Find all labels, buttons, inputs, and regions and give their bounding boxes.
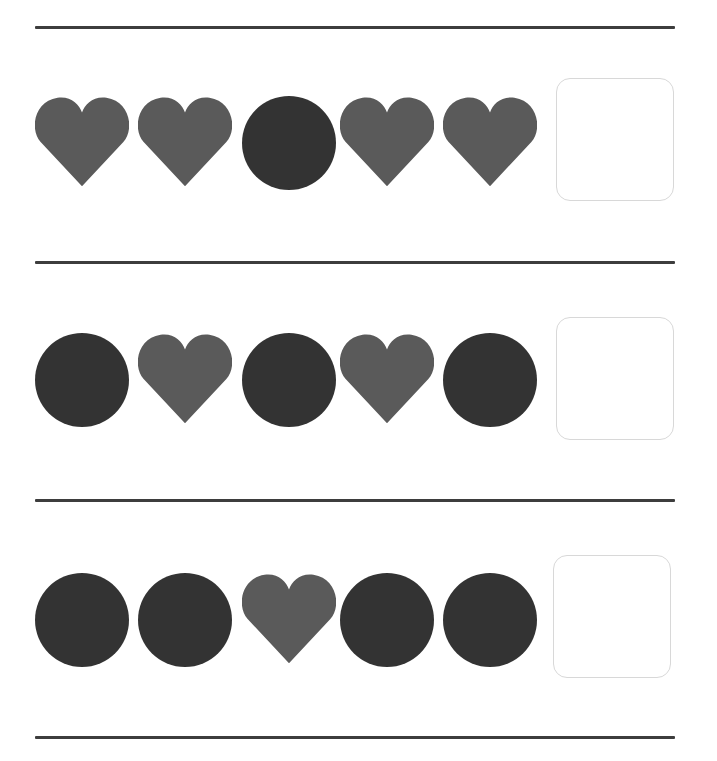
circle-icon xyxy=(340,573,434,667)
heart-icon xyxy=(443,96,537,188)
heart-icon xyxy=(242,573,336,665)
circle-icon xyxy=(242,333,336,427)
answer-box[interactable] xyxy=(556,78,674,201)
circle-icon xyxy=(443,333,537,427)
circle-icon xyxy=(242,96,336,190)
row-divider xyxy=(35,261,675,264)
heart-icon xyxy=(35,96,129,188)
circle-icon xyxy=(35,573,129,667)
heart-icon xyxy=(340,333,434,425)
row-divider xyxy=(35,499,675,502)
heart-icon xyxy=(138,96,232,188)
row-divider xyxy=(35,26,675,29)
answer-box[interactable] xyxy=(556,317,674,440)
row-divider xyxy=(35,736,675,739)
answer-box[interactable] xyxy=(553,555,671,678)
heart-icon xyxy=(340,96,434,188)
heart-icon xyxy=(138,333,232,425)
circle-icon xyxy=(138,573,232,667)
circle-icon xyxy=(443,573,537,667)
circle-icon xyxy=(35,333,129,427)
